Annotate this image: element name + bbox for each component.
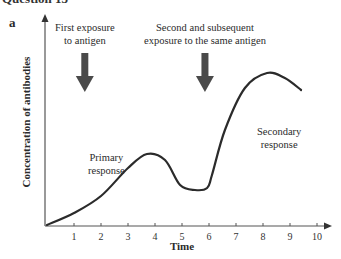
second-exposure-annotation: Second and subsequentexposure to the sam… <box>144 22 267 92</box>
down-arrow-shaft <box>81 53 88 77</box>
x-axis-arrow-icon <box>324 223 332 230</box>
y-axis-arrow-icon <box>42 14 49 22</box>
secondary-response-label-line: Secondary <box>257 126 302 137</box>
first-exposure-label-line: First exposure <box>55 22 115 33</box>
primary-response-label-line: Primary <box>89 152 124 163</box>
x-tick-label: 7 <box>234 231 239 242</box>
x-tick-label: 8 <box>261 231 266 242</box>
first-exposure-label-line: to antigen <box>64 35 106 46</box>
x-tick-label: 2 <box>99 231 104 242</box>
second-exposure-label-line: exposure to the same antigen <box>144 35 267 46</box>
down-arrow-icon <box>76 76 94 92</box>
x-tick-label: 10 <box>312 231 322 242</box>
secondary-response-annotation: Secondaryresponse <box>257 126 302 150</box>
x-tick-label: 1 <box>72 231 77 242</box>
secondary-response-label-line: response <box>261 139 298 150</box>
axes <box>42 14 333 230</box>
down-arrow-shaft <box>201 53 208 77</box>
y-axis-label: Concentration of antibodies <box>20 56 32 188</box>
second-exposure-label-line: Second and subsequent <box>156 22 254 33</box>
primary-response-label-line: response <box>88 165 125 176</box>
primary-response-annotation: Primaryresponse <box>88 152 125 176</box>
first-exposure-annotation: First exposureto antigen <box>55 22 115 92</box>
panel-label: a <box>9 15 16 30</box>
x-tick-label: 4 <box>153 231 158 242</box>
down-arrow-icon <box>196 76 214 92</box>
annotation-layer: First exposureto antigenSecond and subse… <box>55 22 302 176</box>
x-axis-label: Time <box>170 240 194 252</box>
x-tick-label: 3 <box>126 231 131 242</box>
x-tick-label: 9 <box>288 231 293 242</box>
antibody-response-chart: a 12345678910 Time Concentration of anti… <box>0 0 341 259</box>
x-tick-label: 6 <box>207 231 212 242</box>
